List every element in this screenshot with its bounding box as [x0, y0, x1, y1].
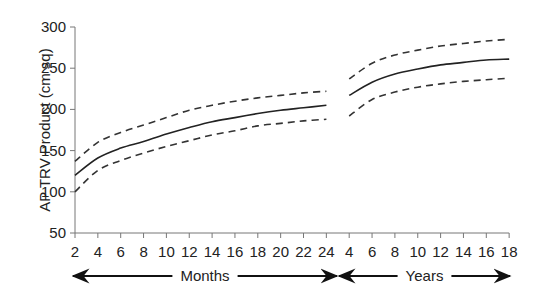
y-tick-label: 50: [49, 224, 66, 241]
x-tick-label: 20: [272, 243, 289, 260]
upper-bound-line: [349, 39, 509, 79]
plot-series: [75, 39, 509, 191]
x-tick-label: 2: [71, 243, 79, 260]
x-tick-label: 8: [391, 243, 399, 260]
x-tick-label: 18: [501, 243, 518, 260]
x-tick-label: 18: [249, 243, 266, 260]
growth-chart: 50100150200250300 2468101214161820222446…: [0, 0, 533, 306]
mean-line: [349, 59, 509, 95]
x-tick-label: 24: [318, 243, 335, 260]
mean-line: [75, 105, 326, 175]
years-label: Years: [406, 267, 444, 284]
x-tick-label: 14: [455, 243, 472, 260]
x-tick-label: 4: [94, 243, 102, 260]
lower-bound-line: [349, 78, 509, 116]
x-tick-label: 16: [478, 243, 495, 260]
x-tick-label: 6: [368, 243, 376, 260]
x-tick-label: 10: [158, 243, 175, 260]
months-label: Months: [180, 267, 229, 284]
lower-bound-line: [75, 119, 326, 192]
x-tick-label: 16: [227, 243, 244, 260]
x-tick-label: 22: [295, 243, 312, 260]
x-axis: 246810121416182022244681012141618: [71, 233, 518, 260]
x-segment-arrows: MonthsYears: [73, 267, 510, 284]
x-tick-label: 12: [432, 243, 449, 260]
x-tick-label: 4: [345, 243, 353, 260]
x-tick-label: 10: [409, 243, 426, 260]
y-axis-title: AP TRV Product (cm sq): [36, 48, 53, 211]
x-tick-label: 6: [117, 243, 125, 260]
x-tick-label: 8: [139, 243, 147, 260]
x-tick-label: 14: [204, 243, 221, 260]
x-tick-label: 12: [181, 243, 198, 260]
y-tick-label: 300: [41, 18, 66, 35]
